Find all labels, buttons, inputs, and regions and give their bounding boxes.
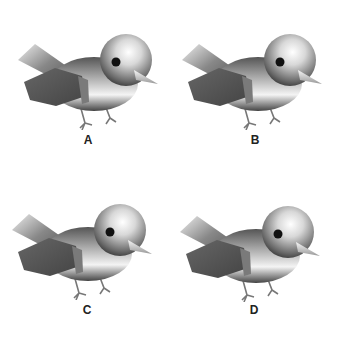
- bird-illustration-b: [174, 20, 324, 130]
- figure-a: A: [0, 0, 169, 169]
- figure-b: B: [170, 0, 339, 169]
- figure-label-b: B: [245, 133, 265, 147]
- figure-label-a: A: [78, 133, 98, 147]
- bird-illustration-c: [4, 190, 154, 300]
- figure-label-c: C: [77, 303, 97, 317]
- bird-illustration-d: [172, 192, 322, 302]
- figure-d: D: [170, 170, 339, 339]
- figure-c: C: [0, 170, 169, 339]
- figure-label-d: D: [244, 303, 264, 317]
- bird-illustration-a: [10, 20, 160, 130]
